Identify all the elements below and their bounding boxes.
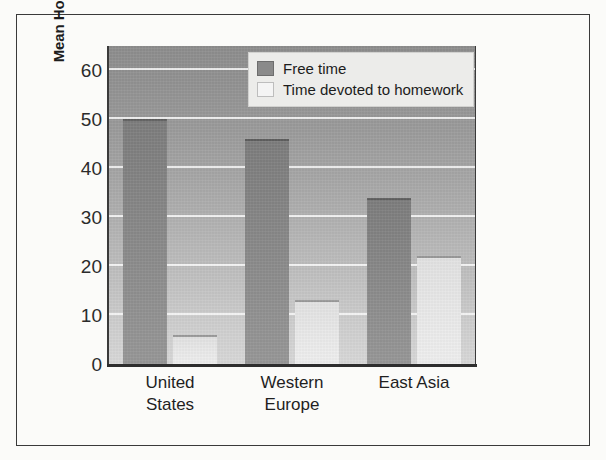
y-tick-label: 30 <box>56 208 102 227</box>
legend-label: Time devoted to homework <box>283 82 463 97</box>
x-tick-label-line: East Asia <box>353 372 475 394</box>
x-tick-label-line: Europe <box>231 394 353 416</box>
figure: Mean Hours per Week 0102030405060 Free t… <box>0 0 606 460</box>
x-tick-label-line: Western <box>231 372 353 394</box>
legend-item: Time devoted to homework <box>257 79 463 100</box>
bar-free-time <box>245 139 289 364</box>
chart-legend: Free timeTime devoted to homework <box>248 52 474 107</box>
y-tick-label: 20 <box>56 257 102 276</box>
bar-homework <box>295 300 339 364</box>
y-axis-ticks: 0102030405060 <box>50 46 102 364</box>
homework-swatch <box>257 82 274 97</box>
x-axis-ticks: UnitedStatesWesternEuropeEast Asia <box>109 372 477 432</box>
y-axis-line <box>107 46 109 366</box>
x-tick-label: East Asia <box>353 372 475 394</box>
y-tick-label: 50 <box>56 110 102 129</box>
y-tick-label: 10 <box>56 306 102 325</box>
x-tick-label-line: States <box>109 394 231 416</box>
legend-item: Free time <box>257 58 463 79</box>
bar-free-time <box>367 198 411 364</box>
y-tick-label: 40 <box>56 159 102 178</box>
free-time-swatch <box>257 61 274 76</box>
x-tick-label: UnitedStates <box>109 372 231 416</box>
legend-label: Free time <box>283 61 346 76</box>
x-tick-label-line: United <box>109 372 231 394</box>
bar-homework <box>417 256 461 364</box>
x-axis-line <box>107 364 477 367</box>
bar-free-time <box>123 119 167 364</box>
y-tick-label: 60 <box>56 61 102 80</box>
x-tick-label: WesternEurope <box>231 372 353 416</box>
y-tick-label: 0 <box>56 355 102 374</box>
bar-homework <box>173 335 217 364</box>
